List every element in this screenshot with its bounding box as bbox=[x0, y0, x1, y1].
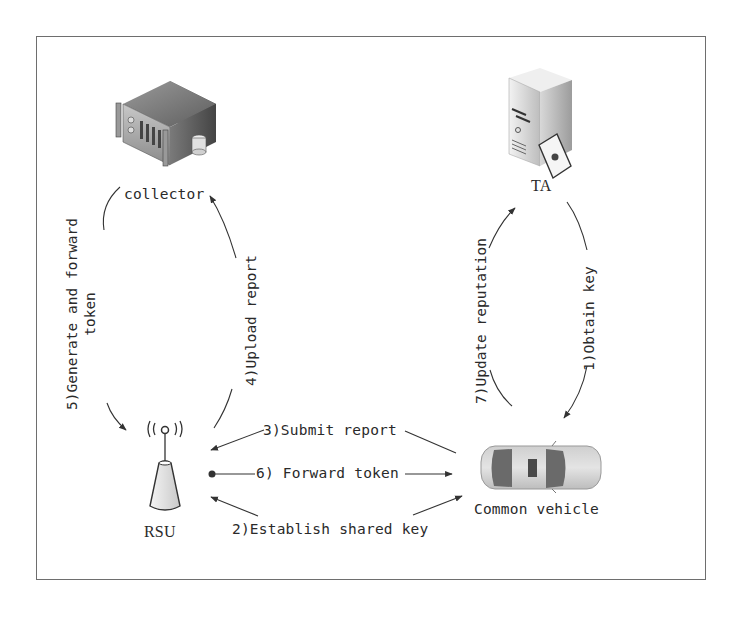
server-rack-icon bbox=[116, 81, 216, 166]
edge-label-obtain-key: 1)Obtain key bbox=[581, 266, 597, 371]
edge-establish-shared-key bbox=[211, 496, 462, 516]
car-topview-icon bbox=[481, 441, 601, 493]
edge-label-establish-shared-key: 2)Establish shared key bbox=[232, 521, 428, 537]
ta-label: TA bbox=[531, 177, 551, 195]
edge-label-generate-line1: 5)Generate and forward bbox=[63, 218, 81, 410]
edge-label-forward-token: 6) Forward token bbox=[256, 465, 399, 481]
edge-label-generate-forward-token: 5)Generate and forward token bbox=[63, 218, 99, 410]
edge-generate-forward-token bbox=[103, 187, 126, 430]
edge-label-update-reputation: 7)Update reputation bbox=[473, 238, 489, 404]
vehicle-label: Common vehicle bbox=[474, 501, 599, 517]
server-tower-certificate-icon bbox=[509, 68, 572, 178]
edge-label-upload-report: 4)Upload report bbox=[243, 255, 259, 386]
collector-label: collector bbox=[124, 186, 204, 202]
antenna-tower-icon bbox=[148, 421, 182, 510]
edge-upload-report bbox=[210, 196, 236, 428]
edge-update-reputation bbox=[489, 208, 515, 406]
edge-label-generate-line2: token bbox=[81, 218, 99, 410]
edge-label-submit-report: 3)Submit report bbox=[263, 422, 397, 438]
rsu-label: RSU bbox=[144, 523, 176, 541]
